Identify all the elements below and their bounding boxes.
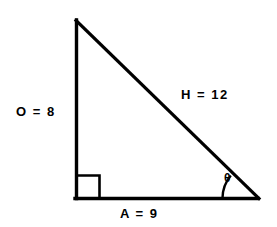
adjacent-side-label: A = 9 xyxy=(120,207,158,220)
triangle-diagram: O = 8 H = 12 A = 9 θ xyxy=(0,0,277,227)
opposite-side-label: O = 8 xyxy=(16,105,56,118)
right-angle-marker xyxy=(77,176,100,199)
hypotenuse-label: H = 12 xyxy=(181,88,229,101)
theta-angle-label: θ xyxy=(224,172,231,184)
hypotenuse-line xyxy=(76,21,259,199)
